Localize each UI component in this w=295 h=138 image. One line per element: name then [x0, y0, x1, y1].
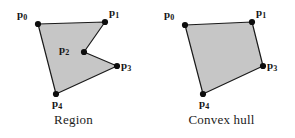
- caption-convex-hull: Convex hull: [148, 112, 295, 128]
- convex-hull-figure: p0 p1 p2 p3 p4 Region p0 p1 p3 p4 Convex…: [0, 0, 295, 138]
- vertex-label-p4: p4: [52, 98, 62, 111]
- vertex-label-p3: p3: [121, 60, 131, 73]
- vertex-label-p0: p0: [17, 9, 27, 22]
- vertex-dot-p1: [102, 19, 108, 25]
- vertex-dot-p1: [249, 19, 255, 25]
- region-polygon-shape: [38, 22, 117, 94]
- vertex-label-p2: p2: [59, 44, 69, 57]
- vertex-label-p1: p1: [109, 7, 119, 20]
- vertex-label-p1: p1: [256, 7, 266, 20]
- vertex-dot-p3: [260, 63, 266, 69]
- panel-region: p0 p1 p2 p3 p4 Region: [0, 0, 147, 138]
- caption-region: Region: [0, 112, 147, 128]
- vertex-label-p0: p0: [164, 9, 174, 22]
- vertex-dot-p3: [114, 63, 120, 69]
- vertex-label-p3: p3: [267, 60, 277, 73]
- panel-convex-hull: p0 p1 p3 p4 Convex hull: [148, 0, 295, 138]
- vertex-label-p4: p4: [199, 98, 209, 111]
- vertex-dot-p0: [182, 22, 188, 28]
- vertex-dot-p2: [81, 49, 87, 55]
- vertex-dot-p0: [35, 21, 41, 27]
- convex-hull-polygon-shape: [185, 22, 263, 94]
